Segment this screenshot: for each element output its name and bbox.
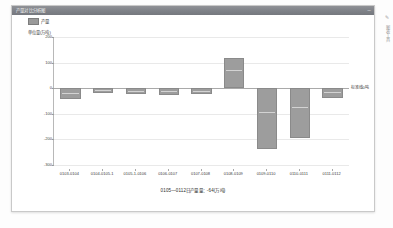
bar-chart: 单位量(万吨) 2001000标准线0吨-100-200-300 0103-01…: [21, 30, 365, 180]
right-toolbar: ✎ 图表工具: [382, 10, 392, 164]
edit-icon[interactable]: ✎: [385, 14, 389, 20]
legend-label: 产量: [41, 19, 49, 24]
bar[interactable]: [224, 58, 244, 88]
bar[interactable]: [60, 88, 80, 99]
y-tick-label: 100: [45, 60, 52, 65]
y-tick-label: -100: [44, 112, 52, 117]
x-tick-label: 0111-0112: [322, 172, 340, 177]
chart-legend: 产量: [28, 18, 49, 25]
y-tick-label: -300: [44, 163, 52, 168]
x-tick-label: 0110-0111: [290, 172, 308, 177]
y-tick-label: 200: [45, 35, 52, 40]
y-tick-label: -200: [44, 137, 52, 142]
bars-group: [54, 37, 349, 165]
y-tick-label: 0: [50, 86, 52, 91]
y-tick-mark: [52, 165, 54, 166]
window-titlebar[interactable]: 产量对比分析图 ─: [12, 6, 374, 15]
bar[interactable]: [159, 88, 179, 95]
window-title: 产量对比分析图: [12, 8, 366, 13]
bar[interactable]: [93, 88, 113, 93]
zero-line-label: 标准线0吨: [351, 86, 369, 90]
x-tick-label: 0109-0110: [257, 172, 276, 177]
gridline: [54, 165, 349, 166]
x-tick-label: 0107-0108: [191, 172, 210, 177]
toolbar-vertical-label: 图表工具: [385, 25, 390, 41]
screen: 产量对比分析图 ─ 产量 单位量(万吨) 2001000标准线0吨-100-20…: [0, 0, 393, 228]
x-tick-label: 0104-0105-1: [91, 172, 114, 177]
chart-window: 产量对比分析图 ─ 产量 单位量(万吨) 2001000标准线0吨-100-20…: [11, 5, 375, 212]
x-tick-label: 0103-0104: [60, 172, 79, 177]
x-tick-label: 0108-0109: [224, 172, 243, 177]
minimize-icon[interactable]: ─: [366, 8, 372, 14]
x-axis: 0103-01040104-0105-10105-1-01060106-0107…: [53, 169, 349, 181]
legend-swatch-icon: [28, 18, 39, 25]
bar[interactable]: [322, 88, 342, 98]
bar[interactable]: [126, 88, 146, 94]
plot-area: 2001000标准线0吨-100-200-300: [53, 37, 349, 165]
x-tick-label: 0106-0107: [158, 172, 177, 177]
bar[interactable]: [290, 88, 310, 138]
chart-caption: 0105—0112日产量量：-64(万吨): [12, 188, 374, 194]
x-tick-label: 0105-1-0106: [124, 172, 147, 177]
bar[interactable]: [257, 88, 277, 149]
bar[interactable]: [191, 88, 211, 94]
